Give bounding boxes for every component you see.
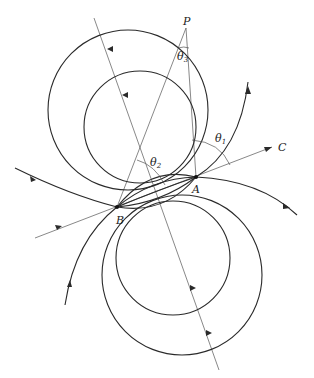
arrow-icon (264, 147, 272, 152)
arrow-icon (122, 92, 128, 98)
point-p-label: P (182, 15, 191, 28)
point-a-label: A (191, 183, 200, 196)
theta1-label: θ1 (215, 132, 226, 146)
field-line-upper-right (196, 82, 248, 177)
point-b-label: B (115, 214, 124, 227)
lower-inner-field-circle (116, 201, 230, 315)
point-c-label: C (278, 141, 287, 154)
arrow-icon (206, 330, 212, 336)
field-line-left-in (15, 168, 117, 207)
lower-outer-field-circle (102, 195, 262, 355)
arrow-icon (190, 285, 196, 291)
charge-a-dot (194, 175, 198, 179)
arrow-icon (283, 203, 290, 209)
field-diagram: P A B C θ1 θ2 θ3 (0, 0, 314, 378)
theta2-label: θ2 (150, 156, 162, 170)
field-line-right-out (196, 177, 297, 215)
upper-inner-field-circle (84, 71, 196, 183)
theta3-label: θ3 (177, 50, 189, 64)
arrow-icon (245, 86, 251, 94)
arrow-icon (107, 46, 113, 52)
upper-outer-field-circle (48, 30, 208, 190)
perpendicular-bisector-line (94, 18, 219, 370)
charge-b-dot (115, 205, 119, 209)
field-line-lower-left (65, 207, 117, 305)
